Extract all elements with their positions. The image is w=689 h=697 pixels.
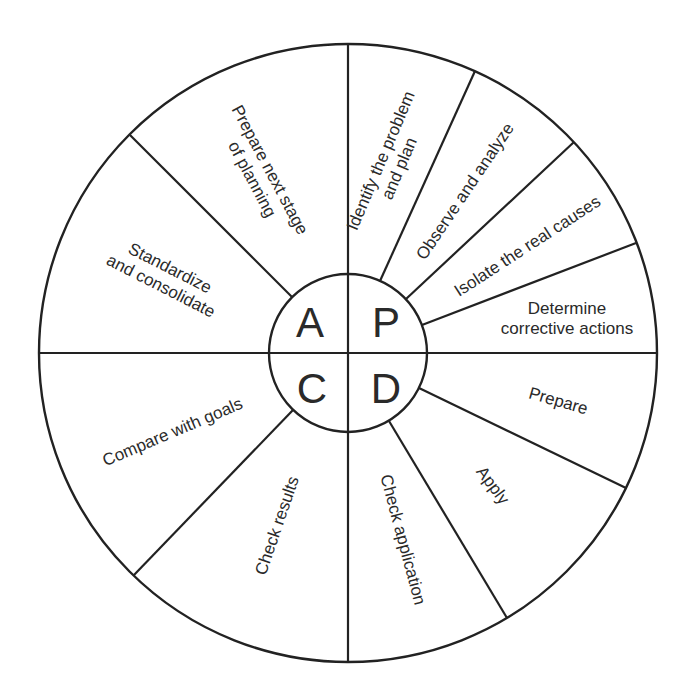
quadrant-letter-plan: P [372, 299, 400, 346]
segment-label-line1: Compare with goals [100, 394, 246, 470]
spoke-do-1 [419, 388, 626, 488]
segment-observe-analyze: Observe and analyze [412, 120, 518, 264]
segment-label-line1: Prepare [527, 384, 590, 419]
segment-check-results: Check results [251, 474, 302, 578]
segment-standardize: Standardize and consolidate [104, 233, 228, 322]
quadrant-letter-act: A [296, 299, 324, 346]
segment-label-line1: Check application [376, 472, 429, 607]
segment-determine-actions: Determine corrective actions [501, 299, 633, 338]
segment-label-line2: corrective actions [501, 319, 633, 338]
segment-label-line1: Apply [472, 463, 513, 509]
segment-prepare-next-stage: Prepare next stage of planning [210, 102, 312, 247]
segment-compare-goals: Compare with goals [100, 394, 246, 470]
segment-check-application: Check application [376, 472, 429, 607]
segment-prepare: Prepare [527, 384, 590, 419]
segment-label-line1: Check results [251, 474, 302, 578]
segment-label-line1: Observe and analyze [412, 120, 518, 264]
segment-apply: Apply [472, 463, 513, 509]
quadrant-letter-do: D [371, 365, 401, 412]
pdca-wheel-diagram: A P C D Identify the problem and plan Ob… [0, 0, 689, 697]
segment-identify-problem: Identify the problem and plan [343, 88, 437, 241]
segment-label-line1: Determine [528, 299, 606, 318]
quadrant-letter-check: C [297, 365, 327, 412]
